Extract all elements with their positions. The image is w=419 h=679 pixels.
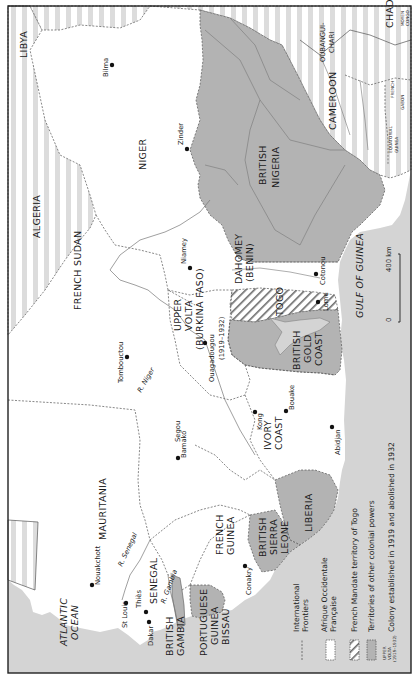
label-portuguese-guinea-3: BISSAU [220, 608, 231, 645]
label-british-nigeria-2: NIGERIA [270, 147, 281, 188]
label-bilma: Bilma [102, 58, 110, 77]
city-dot-abidjan [330, 425, 334, 429]
label-kong: Kong [256, 413, 264, 430]
label-sierra-leone-1: BRITISH [257, 517, 268, 557]
label-gold-coast-2: GOLD [302, 334, 313, 363]
label-atlantic-1: ATLANTIC [58, 598, 69, 647]
label-gold-coast-1: BRITISH [291, 330, 302, 370]
label-niamey: Niamey [180, 238, 188, 264]
label-sierra-leone-3: LEONE [279, 521, 290, 554]
label-nouakchott: Nouakchott [94, 545, 102, 585]
label-libya: LIBYA [18, 31, 29, 58]
label-atlantic-2: OCEAN [69, 605, 80, 640]
legend-label-colony-1919: Colony established in 1919 and abolished… [387, 442, 396, 632]
colonial-map: LIBYA CHAD OUBANGUI- CHARI FRENCH MOYEN … [0, 0, 419, 679]
label-mauritania: MAURITANIA [97, 478, 108, 540]
city-dot-zinder [185, 147, 189, 151]
label-zinder: Zinder [177, 123, 185, 145]
label-ouagadougou: Ouagadougou [208, 334, 216, 382]
label-gold-coast-3: COAST [313, 332, 324, 366]
legend-label-frontiers-2: Frontiers [301, 599, 310, 632]
city-dot-niamey [188, 266, 192, 270]
label-liberia: LIBERIA [303, 493, 314, 532]
label-congo: CONGO [405, 9, 410, 26]
legend-label-aof-1: Afrique Occidentale [320, 557, 329, 632]
legend-togo-symbol [350, 640, 359, 660]
label-cotonou: Cotonou [319, 256, 327, 285]
label-algeria: ALGERIA [31, 195, 42, 238]
label-upper-volta-2: VOLTA [183, 300, 194, 331]
legend-aof-symbol [326, 640, 335, 660]
label-bamako: Bamako [180, 431, 188, 458]
label-gambia-1: BRITISH [164, 616, 175, 656]
label-st-louis: St Louis [121, 601, 129, 628]
label-upper-volta-3: (BURKINA FASO) [194, 268, 205, 350]
label-upper-volta-4: (1919–1932) [218, 316, 226, 360]
legend-label-other-powers: Territories of other colonial powers [367, 500, 376, 633]
label-oubangui-2: CHARI [328, 32, 336, 53]
label-tombouctou: Tombouctou [117, 342, 125, 384]
label-bouake: Bouake [288, 385, 296, 410]
label-portuguese-guinea-2: GUINEA [209, 606, 220, 645]
city-dot-bilma [110, 63, 114, 67]
city-dot-tombouctou [125, 355, 129, 359]
legend-label-togo: French Mandate territory of Togo [350, 508, 359, 632]
label-british-nigeria-1: BRITISH [257, 145, 268, 185]
label-lome: Lome [322, 292, 330, 311]
label-equatorial: EQUATORIAL [388, 126, 393, 153]
label-eq-guinea: GUINEA [394, 137, 399, 153]
legend-upper-volta-symbol-3: (1919–1932) [392, 635, 397, 662]
label-niger: NIGER [137, 139, 148, 170]
label-oubangui-1: OUBANGUI- [319, 22, 327, 62]
label-dakar: Dakar [147, 626, 155, 646]
label-portuguese-guinea-1: PORTUGUESE [198, 589, 209, 656]
label-french-guinea-1: FRENCH [214, 514, 225, 555]
legend-label-aof-2: Française [329, 596, 338, 632]
label-conakry: Conakry [245, 567, 253, 595]
label-gulf-of-guinea: GULF OF GUINEA [354, 233, 365, 318]
city-dot-lome [316, 300, 320, 304]
label-gambia-2: GAMBIA [175, 616, 186, 656]
western-sahara-territory [8, 520, 38, 590]
label-french-sudan: FRENCH SUDAN [72, 231, 83, 310]
label-dahomey-2: (BENIN) [244, 243, 255, 282]
label-gabon: GABON [400, 95, 405, 110]
label-french-guinea-2: GUINEA [225, 516, 236, 555]
legend-other-powers-symbol [367, 640, 376, 660]
label-senegal: SENEGAL [148, 557, 159, 604]
label-chad: CHAD [384, 0, 395, 28]
legend-label-frontiers-1: International [292, 584, 301, 632]
label-upper-volta-1: UPPER [172, 298, 183, 331]
label-togo: TOGO [274, 287, 285, 317]
label-dahomey-1: DAHOMEY [233, 234, 244, 284]
label-french: FRENCH [390, 81, 395, 98]
city-dot-cotonou [314, 272, 318, 276]
city-dot-thies [144, 610, 148, 614]
city-dot-dakar [147, 620, 151, 624]
label-ivory-coast-2: COAST [273, 416, 284, 450]
label-abidjan: Abidjan [334, 429, 342, 455]
label-cameroon: CAMEROON [327, 72, 338, 130]
scale-zero: 0 [385, 318, 393, 322]
label-thies: Thiès [135, 589, 143, 609]
scale-max: 400 km [385, 246, 393, 272]
label-sierra-leone-2: SIERRA [268, 519, 279, 555]
